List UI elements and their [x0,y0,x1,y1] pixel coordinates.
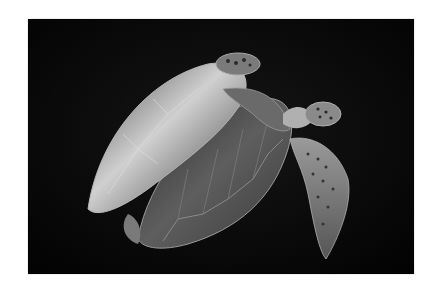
turtle-photo: Two green sea turtles swimming against a… [28,19,414,274]
turtle-illustration [28,19,414,274]
